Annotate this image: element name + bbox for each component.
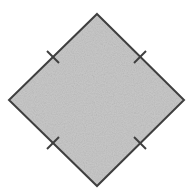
rhombus-shape: [9, 14, 184, 186]
rhombus-diagram: [0, 0, 186, 191]
